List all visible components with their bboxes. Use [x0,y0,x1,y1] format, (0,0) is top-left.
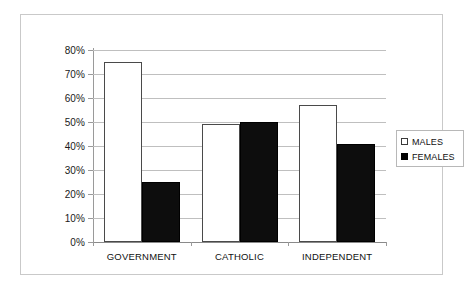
y-axis-tick [88,218,93,219]
y-axis-label-50%: 50% [65,117,85,128]
chart-frame: 0%10%20%30%40%50%60%70%80%GOVERNMENTCATH… [20,14,443,275]
category-axis-tick [288,242,289,246]
legend-item-males: MALES [401,134,463,149]
y-axis-label-30%: 30% [65,165,85,176]
chart-legend: MALES FEMALES [396,130,464,167]
legend-label-males: MALES [412,137,443,147]
gridline-0% [93,242,386,243]
y-axis-label-10%: 10% [65,213,85,224]
y-axis-label-40%: 40% [65,141,85,152]
y-axis-tick [88,74,93,75]
category-label-independent: INDEPENDENT [302,251,372,262]
bar-catholic-females [240,122,278,242]
gridline-80% [93,50,386,51]
y-axis-tick [88,170,93,171]
category-axis-tick [386,242,387,246]
y-axis-tick [88,122,93,123]
y-axis-label-80%: 80% [65,45,85,56]
y-axis-tick [88,146,93,147]
y-axis-tick [88,98,93,99]
bar-independent-females [337,144,375,242]
plot-area: 0%10%20%30%40%50%60%70%80%GOVERNMENTCATH… [93,50,386,242]
bar-independent-males [299,105,337,242]
y-axis-label-60%: 60% [65,93,85,104]
legend-swatch-females-icon [401,153,408,160]
legend-label-females: FEMALES [412,152,455,162]
y-axis-label-0%: 0% [70,237,85,248]
category-axis-tick [191,242,192,246]
y-axis-tick [88,50,93,51]
category-label-government: GOVERNMENT [107,251,177,262]
category-label-catholic: CATHOLIC [215,251,264,262]
legend-item-females: FEMALES [401,149,463,164]
y-axis-label-70%: 70% [65,69,85,80]
y-axis-label-20%: 20% [65,189,85,200]
legend-swatch-males-icon [401,138,408,145]
category-axis-tick [93,242,94,246]
bar-government-females [142,182,180,242]
bar-catholic-males [202,124,240,242]
y-axis-tick [88,194,93,195]
bar-government-males [104,62,142,242]
